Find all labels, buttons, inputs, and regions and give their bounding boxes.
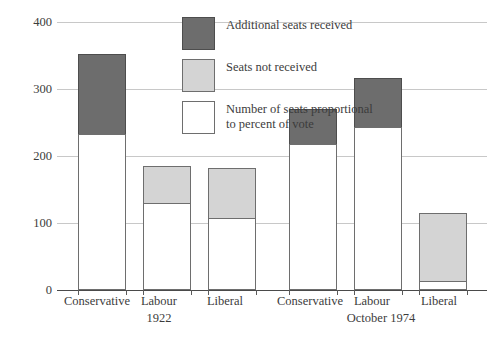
y-axis-labels: 400 300 200 100 0	[0, 0, 52, 337]
y-tick-label-200: 200	[8, 150, 52, 162]
legend-label-proportional: Number of seats proportional to percent …	[226, 101, 382, 131]
segment-additional-seats	[78, 54, 126, 134]
x-label-1974-liberal: Liberal	[400, 294, 478, 309]
segment-proportional-seats	[289, 144, 337, 290]
segment-proportional-seats	[354, 127, 402, 290]
bar-1974-liberal	[419, 213, 467, 290]
legend-swatch-additional-icon	[182, 17, 215, 50]
bar-1922-labour	[143, 166, 191, 290]
group-label-october-1974: October 1974	[321, 311, 441, 326]
segment-proportional-seats	[78, 134, 126, 290]
bar-1922-conservative	[78, 54, 126, 290]
y-tick-label-300: 300	[8, 83, 52, 95]
legend-label-additional: Additional seats received	[226, 17, 352, 33]
legend-item-seats-not-received: Seats not received	[182, 59, 382, 92]
chart-legend: Additional seats received Seats not rece…	[182, 17, 382, 143]
legend-item-proportional-seats: Number of seats proportional to percent …	[182, 101, 382, 134]
legend-label-not-received: Seats not received	[226, 59, 317, 75]
segment-proportional-seats	[143, 203, 191, 290]
x-label-1922-liberal: Liberal	[186, 294, 264, 309]
stacked-bar-chart: 400 300 200 100 0 Conservative Labour Li…	[0, 0, 497, 337]
legend-item-additional-seats: Additional seats received	[182, 17, 382, 50]
bar-1922-liberal	[208, 168, 256, 290]
segment-seats-not-received	[208, 168, 256, 218]
legend-swatch-not-received-icon	[182, 59, 215, 92]
legend-swatch-proportional-icon	[182, 101, 215, 134]
y-tick-label-100: 100	[8, 217, 52, 229]
segment-seats-not-received	[143, 166, 191, 203]
segment-proportional-seats	[419, 281, 467, 290]
segment-proportional-seats	[208, 218, 256, 290]
x-axis-line	[57, 290, 487, 291]
group-label-1922: 1922	[120, 311, 198, 326]
segment-seats-not-received	[419, 213, 467, 281]
y-tick-label-400: 400	[8, 16, 52, 28]
